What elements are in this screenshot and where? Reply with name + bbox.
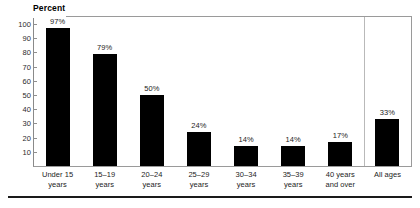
y-axis-tick-label: 20 bbox=[3, 133, 31, 142]
x-axis-category-label: 30–34years bbox=[223, 170, 270, 189]
bar-value-label: 97% bbox=[50, 17, 65, 26]
category-label-line: 15–19 bbox=[81, 170, 128, 180]
category-label-line: years bbox=[270, 180, 317, 190]
bar-value-label: 17% bbox=[333, 131, 348, 140]
y-axis-tick-label: 30 bbox=[3, 119, 31, 128]
category-label-line: years bbox=[128, 180, 175, 190]
category-label-line: 40 years bbox=[317, 170, 364, 180]
plot-area: 97%79%50%24%14%14%17%33% bbox=[34, 17, 411, 166]
bar-slot: 79% bbox=[93, 17, 117, 166]
x-axis-category-label: 15–19years bbox=[81, 170, 128, 189]
bar-value-label: 33% bbox=[380, 108, 395, 117]
y-axis-labels: 102030405060708090100 bbox=[0, 0, 31, 208]
bottom-rule bbox=[8, 196, 412, 198]
bar-slot: 14% bbox=[281, 17, 305, 166]
category-label-line: years bbox=[223, 180, 270, 190]
y-axis-tick-label: 50 bbox=[3, 91, 31, 100]
bar-value-label: 79% bbox=[97, 43, 112, 52]
x-axis-category-label: 25–29years bbox=[175, 170, 222, 189]
x-axis-category-label: 40 yearsand over bbox=[317, 170, 364, 189]
y-axis-tick-label: 40 bbox=[3, 105, 31, 114]
bar-value-label: 24% bbox=[191, 121, 206, 130]
bar[interactable] bbox=[93, 54, 117, 166]
category-label-line: years bbox=[175, 180, 222, 190]
category-label-line: 25–29 bbox=[175, 170, 222, 180]
bar[interactable] bbox=[281, 146, 305, 166]
bar-slot: 24% bbox=[187, 17, 211, 166]
bar-slot: 17% bbox=[328, 17, 352, 166]
category-label-line: Under 15 bbox=[34, 170, 81, 180]
bar[interactable] bbox=[328, 142, 352, 166]
bar-value-label: 50% bbox=[144, 84, 159, 93]
category-label-line: 20–24 bbox=[128, 170, 175, 180]
bar-slot: 33% bbox=[375, 17, 399, 166]
bar-slot: 97% bbox=[46, 17, 70, 166]
x-axis-category-label: All ages bbox=[364, 170, 411, 180]
y-axis-tick-label: 70 bbox=[3, 62, 31, 71]
category-label-line: 30–34 bbox=[223, 170, 270, 180]
bar-value-label: 14% bbox=[238, 135, 253, 144]
category-label-line: All ages bbox=[364, 170, 411, 180]
y-axis-tick-label: 60 bbox=[3, 76, 31, 85]
bar[interactable] bbox=[234, 146, 258, 166]
y-axis-tick-label: 10 bbox=[3, 147, 31, 156]
bar-chart-figure: Percent 102030405060708090100 97%79%50%2… bbox=[0, 0, 420, 208]
category-label-line: 35–39 bbox=[270, 170, 317, 180]
x-axis-category-label: Under 15years bbox=[34, 170, 81, 189]
bar[interactable] bbox=[187, 132, 211, 166]
bar-value-label: 14% bbox=[286, 135, 301, 144]
x-axis-category-labels: Under 15years15–19years20–24years25–29ye… bbox=[34, 170, 411, 196]
y-axis-tick-label: 80 bbox=[3, 48, 31, 57]
bar-slot: 50% bbox=[140, 17, 164, 166]
y-axis-tick-label: 100 bbox=[3, 20, 31, 29]
x-axis-category-label: 35–39years bbox=[270, 170, 317, 189]
category-label-line: years bbox=[34, 180, 81, 190]
category-label-line: and over bbox=[317, 180, 364, 190]
bar[interactable] bbox=[46, 28, 70, 166]
y-axis-tick-label: 90 bbox=[3, 34, 31, 43]
bar-slot: 14% bbox=[234, 17, 258, 166]
x-axis-category-label: 20–24years bbox=[128, 170, 175, 189]
bar[interactable] bbox=[140, 95, 164, 166]
bar[interactable] bbox=[375, 119, 399, 166]
group-separator bbox=[364, 17, 365, 166]
category-label-line: years bbox=[81, 180, 128, 190]
